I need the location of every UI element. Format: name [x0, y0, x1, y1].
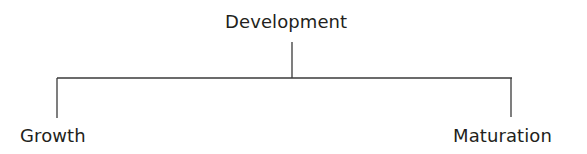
child-node-growth: Growth	[20, 127, 86, 145]
tree-diagram: Development Growth Maturation	[0, 0, 587, 154]
child-node-maturation: Maturation	[453, 127, 552, 145]
root-node-development: Development	[225, 13, 347, 31]
